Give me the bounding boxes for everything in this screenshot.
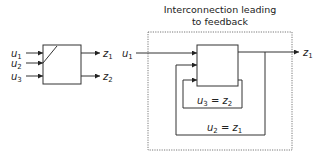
label-u3: u3 xyxy=(11,71,22,84)
right-system: Interconnection leading to feedback u1 z… xyxy=(122,4,313,150)
label-z1: z1 xyxy=(102,48,113,61)
title-line-2: to feedback xyxy=(192,16,249,27)
outer-loop-label: u2 = z1 xyxy=(207,122,242,135)
left-system: u1 u2 u3 z1 z2 xyxy=(11,45,113,84)
right-label-z1: z1 xyxy=(302,47,313,60)
title-line-1: Interconnection leading xyxy=(164,4,276,15)
right-label-u1: u1 xyxy=(122,48,133,61)
inner-loop-label: u3 = z2 xyxy=(197,95,232,108)
right-system-block xyxy=(197,45,238,86)
feedback-diagram: u1 u2 u3 z1 z2 Interconnection leading t… xyxy=(0,0,324,156)
label-z2: z2 xyxy=(102,71,113,84)
left-system-block xyxy=(43,45,81,84)
